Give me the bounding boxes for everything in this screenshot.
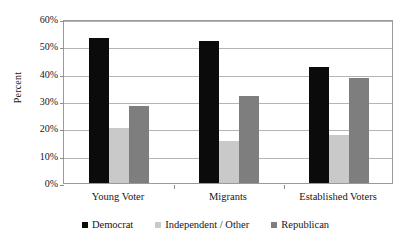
x-axis-tick-mark xyxy=(174,185,175,189)
legend-swatch-icon xyxy=(82,222,88,228)
legend-item-independent[interactable]: Independent / Other xyxy=(155,219,249,231)
y-axis-title: Percent xyxy=(12,48,23,128)
bar-democrat xyxy=(309,67,329,183)
x-axis-category-label: Young Voter xyxy=(63,190,173,203)
x-axis-category-label: Established Voters xyxy=(283,190,393,203)
y-axis-tick-labels: 60%50%40%30%20%10%0% xyxy=(24,20,58,184)
y-axis-tick-label: 50% xyxy=(24,42,58,52)
x-axis-category-label: Migrants xyxy=(173,190,283,203)
plot-area xyxy=(63,20,393,184)
bar-republican xyxy=(129,106,149,183)
y-axis-tick-label: 10% xyxy=(24,152,58,162)
legend-item-label: Democrat xyxy=(92,219,133,231)
legend-item-democrat[interactable]: Democrat xyxy=(82,219,133,231)
legend-item-label: Independent / Other xyxy=(165,219,249,231)
bar-independent xyxy=(219,141,239,183)
y-axis-tick-mark xyxy=(60,185,64,186)
bar-chart: Percent 60%50%40%30%20%10%0% Young Voter… xyxy=(0,0,411,246)
legend-item-label: Republican xyxy=(281,219,329,231)
bar-democrat xyxy=(89,38,109,183)
x-axis-category-labels: Young VoterMigrantsEstablished Voters xyxy=(63,190,393,206)
bar-republican xyxy=(349,78,369,183)
bar-republican xyxy=(239,96,259,183)
y-axis-tick-label: 30% xyxy=(24,97,58,107)
legend-item-republican[interactable]: Republican xyxy=(271,219,329,231)
y-axis-tick-label: 40% xyxy=(24,70,58,80)
bars-layer xyxy=(64,21,392,183)
y-axis-tick-label: 60% xyxy=(24,15,58,25)
y-axis-tick-label: 20% xyxy=(24,124,58,134)
bar-independent xyxy=(109,128,129,183)
legend-swatch-icon xyxy=(271,222,277,228)
bar-independent xyxy=(329,135,349,183)
bar-democrat xyxy=(199,41,219,183)
chart-legend: DemocratIndependent / OtherRepublican xyxy=(0,219,411,231)
x-axis-tick-mark xyxy=(284,185,285,189)
y-axis-tick-label: 0% xyxy=(24,179,58,189)
legend-swatch-icon xyxy=(155,222,161,228)
